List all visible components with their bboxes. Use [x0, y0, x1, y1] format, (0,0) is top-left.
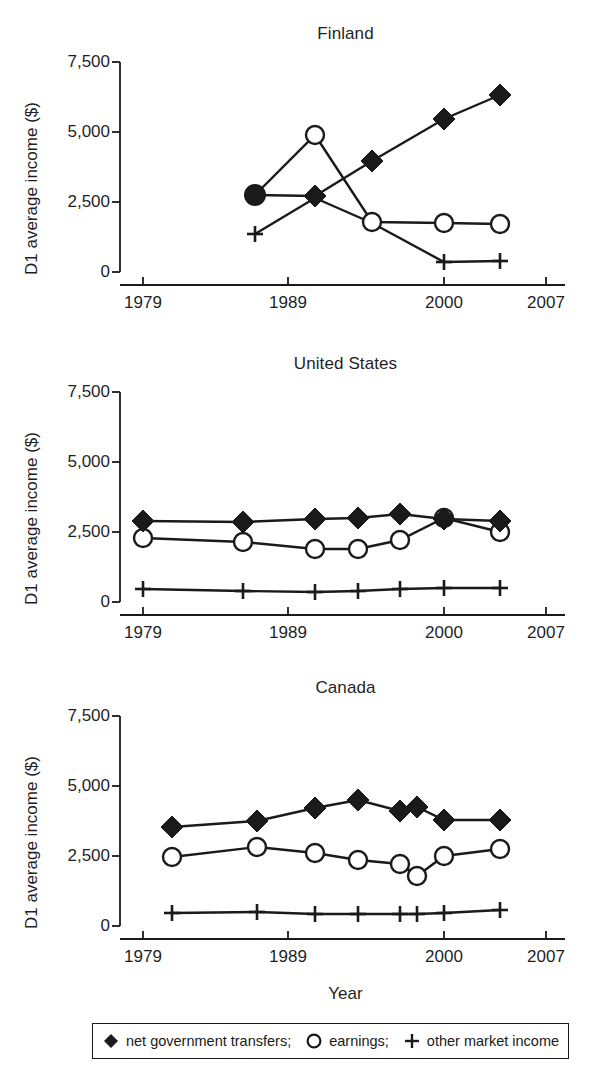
legend-item-net-government-transfers: net government transfers; — [102, 1032, 291, 1050]
legend-label-earnings: earnings; — [329, 1033, 389, 1049]
filled-diamond-icon — [102, 1032, 120, 1050]
marker-group-earnings — [163, 838, 509, 885]
panel-canada: Canada D1 average income ($) 7,500 5,000… — [0, 654, 607, 994]
marker-group-net-government-transfers — [132, 503, 511, 533]
legend-item-earnings: earnings; — [305, 1032, 389, 1050]
series-line-net-government-transfers — [255, 95, 500, 196]
legend-label-other-market-income: other market income — [427, 1033, 559, 1049]
legend-item-other-market-income: other market income — [403, 1032, 559, 1050]
marker-group-net-government-transfers — [161, 789, 511, 838]
marker-group-earnings — [306, 126, 509, 233]
open-circle-icon — [305, 1032, 323, 1050]
legend: net government transfers; earnings; othe… — [92, 1023, 569, 1059]
plot-area-canada — [0, 654, 607, 994]
plot-area-finland — [0, 0, 607, 330]
panel-united-states: United States D1 average income ($) 7,50… — [0, 330, 607, 660]
legend-label-net-government-transfers: net government transfers; — [126, 1033, 291, 1049]
panel-finland: Finland D1 average income ($) 7,500 5,00… — [0, 0, 607, 330]
x-axis-title: Year — [0, 984, 607, 1004]
plot-area-united-states — [0, 330, 607, 660]
marker-overlap-1987-finland — [245, 185, 265, 205]
figure-root: Finland D1 average income ($) 7,500 5,00… — [0, 0, 607, 1073]
plus-icon — [403, 1032, 421, 1050]
